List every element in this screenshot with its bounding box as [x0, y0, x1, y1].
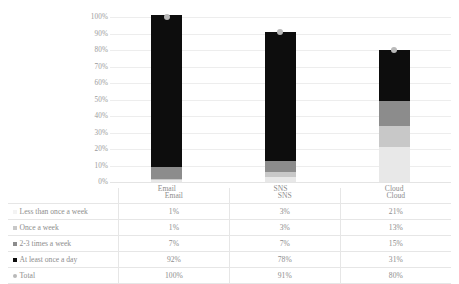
bar-group-email: Email	[110, 0, 224, 188]
stacked-bar-cloud[interactable]	[379, 50, 410, 182]
table-cell: 7%	[229, 236, 340, 252]
y-tick-70: 70%	[95, 63, 108, 71]
legend-label: At least once a day	[20, 255, 78, 264]
y-axis-tick-labels: 100%90%80%70%60%50%40%30%20%10%0%	[80, 0, 108, 188]
y-tick-60: 60%	[95, 79, 108, 87]
y-tick-20: 20%	[95, 145, 108, 153]
legend-item-2-3-times-a-week[interactable]: 2-3 times a week	[8, 236, 119, 252]
legend-swatch-square-icon	[13, 258, 17, 262]
total-marker-sns[interactable]	[277, 29, 283, 35]
data-table-body: EmailSNSCloudLess than once a week1%3%21…	[8, 188, 451, 284]
y-tick-40: 40%	[95, 112, 108, 120]
table-cell: 15%	[340, 236, 451, 252]
y-tick-90: 90%	[95, 30, 108, 38]
table-column-header-email: Email	[119, 188, 230, 204]
table-cell: 3%	[229, 204, 340, 220]
bar-segment-2-3-times-a-week[interactable]	[379, 101, 410, 126]
stacked-bar-email[interactable]	[151, 15, 182, 182]
bar-segment-less-than-once-a-week[interactable]	[151, 180, 182, 182]
bar-segment-at-least-once-a-day[interactable]	[379, 50, 410, 101]
y-tick-50: 50%	[95, 96, 108, 104]
table-cell: 1%	[119, 204, 230, 220]
plot-area: 100%90%80%70%60%50%40%30%20%10%0% EmailS…	[0, 0, 459, 188]
legend-label: Less than once a week	[20, 207, 88, 216]
table-row: Total100%91%80%	[8, 268, 451, 284]
table-cell: 80%	[340, 268, 451, 284]
stacked-bar-sns[interactable]	[265, 32, 296, 182]
table-row: 2-3 times a week7%7%15%	[8, 236, 451, 252]
legend-item-total[interactable]: Total	[8, 268, 119, 284]
bar-segment-at-least-once-a-day[interactable]	[151, 15, 182, 167]
bar-series-container: EmailSNSCloud	[110, 0, 451, 188]
total-marker-cloud[interactable]	[391, 47, 397, 53]
table-row: At least once a day92%78%31%	[8, 252, 451, 268]
table-column-header-sns: SNS	[229, 188, 340, 204]
table-column-header-cloud: Cloud	[340, 188, 451, 204]
table-cell: 31%	[340, 252, 451, 268]
table-cell: 100%	[119, 268, 230, 284]
table-cell: 3%	[229, 220, 340, 236]
bar-segment-2-3-times-a-week[interactable]	[151, 167, 182, 179]
legend-item-at-least-once-a-day[interactable]: At least once a day	[8, 252, 119, 268]
legend-label: Total	[20, 271, 36, 280]
table-row: Less than once a week1%3%21%	[8, 204, 451, 220]
table-cell: 13%	[340, 220, 451, 236]
bar-segment-2-3-times-a-week[interactable]	[265, 161, 296, 173]
y-tick-80: 80%	[95, 46, 108, 54]
bar-segment-once-a-week[interactable]	[379, 126, 410, 147]
legend-label: Once a week	[20, 223, 59, 232]
table-cell: 21%	[340, 204, 451, 220]
legend-label: 2-3 times a week	[20, 239, 72, 248]
table-header-row: EmailSNSCloud	[8, 188, 451, 204]
legend-swatch-square-icon	[13, 226, 17, 230]
legend-item-once-a-week[interactable]: Once a week	[8, 220, 119, 236]
legend-item-less-than-once-a-week[interactable]: Less than once a week	[8, 204, 119, 220]
bar-segment-less-than-once-a-week[interactable]	[265, 177, 296, 182]
data-table: EmailSNSCloudLess than once a week1%3%21…	[8, 188, 451, 284]
bar-segment-at-least-once-a-day[interactable]	[265, 32, 296, 161]
total-marker-email[interactable]	[164, 14, 170, 20]
y-tick-30: 30%	[95, 129, 108, 137]
y-tick-10: 10%	[95, 162, 108, 170]
table-cell: 7%	[119, 236, 230, 252]
table-cell: 1%	[119, 220, 230, 236]
table-row: Once a week1%3%13%	[8, 220, 451, 236]
table-cell: 92%	[119, 252, 230, 268]
table-cell: 91%	[229, 268, 340, 284]
table-cell: 78%	[229, 252, 340, 268]
legend-swatch-circle-icon	[13, 274, 17, 278]
bar-segment-less-than-once-a-week[interactable]	[379, 147, 410, 182]
y-tick-0: 0%	[98, 178, 108, 186]
table-corner-cell	[8, 188, 119, 204]
bar-group-cloud: Cloud	[337, 0, 451, 188]
y-tick-100: 100%	[91, 13, 108, 21]
legend-swatch-square-icon	[13, 210, 17, 214]
bar-group-sns: SNS	[224, 0, 338, 188]
legend-swatch-square-icon	[13, 242, 17, 246]
